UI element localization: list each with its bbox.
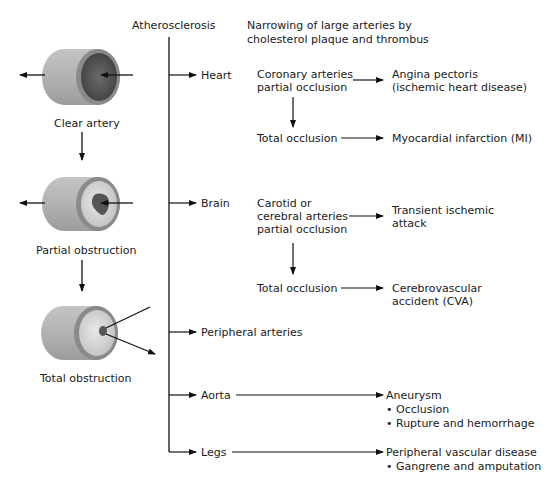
branch-heart: Heart <box>201 69 232 82</box>
aorta-bullet-2: • Rupture and hemorrhage <box>386 417 534 430</box>
aorta-bullet-1: • Occlusion <box>386 403 449 416</box>
branch-brain: Brain <box>201 197 230 210</box>
legs-outcome: Peripheral vascular disease <box>386 446 537 459</box>
brain-partial-line1: Carotid or <box>257 197 312 210</box>
brain-partial-line3: partial occlusion <box>257 223 347 236</box>
heart-partial-outcome-line1: Angina pectoris <box>392 68 478 81</box>
aorta-outcome: Aneurysm <box>386 389 442 402</box>
total-obstruction-illustration <box>41 306 155 360</box>
brain-total: Total occlusion <box>257 282 338 295</box>
root-title: Atherosclerosis <box>132 19 216 32</box>
heart-partial-line1: Coronary arteries <box>257 68 353 81</box>
heart-partial-outcome-line2: (ischemic heart disease) <box>392 81 527 94</box>
clear-artery-label: Clear artery <box>54 117 120 130</box>
branch-legs: Legs <box>201 446 226 459</box>
brain-total-outcome-line1: Cerebrovascular <box>392 282 482 295</box>
branch-aorta: Aorta <box>201 389 231 402</box>
partial-obstruction-illustration <box>20 177 133 231</box>
total-obstruction-label: Total obstruction <box>40 372 132 385</box>
brain-partial-line2: cerebral arteries <box>257 210 348 223</box>
brain-total-outcome-line2: accident (CVA) <box>392 295 473 308</box>
heart-partial-line2: partial occlusion <box>257 81 347 94</box>
clear-artery-illustration <box>20 49 133 105</box>
branch-peripheral-arteries: Peripheral arteries <box>201 326 303 339</box>
heart-total: Total occlusion <box>257 132 338 145</box>
heart-total-outcome: Myocardial infarction (MI) <box>392 132 532 145</box>
root-description-line2: cholesterol plaque and thrombus <box>247 33 429 46</box>
legs-bullet-1: • Gangrene and amputation <box>386 460 541 473</box>
brain-partial-outcome-line1: Transient ischemic <box>392 204 494 217</box>
partial-obstruction-label: Partial obstruction <box>36 244 136 257</box>
brain-partial-outcome-line2: attack <box>392 217 427 230</box>
root-description-line1: Narrowing of large arteries by <box>247 19 412 32</box>
